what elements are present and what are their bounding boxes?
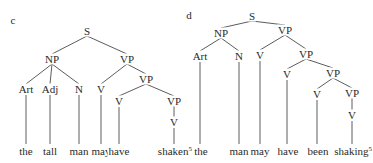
- node-v: V: [282, 69, 292, 80]
- node-v: V: [347, 110, 357, 121]
- word-been: been: [307, 146, 330, 157]
- node-vp: VP: [344, 88, 360, 99]
- node-vp: VP: [119, 54, 135, 65]
- node-v: V: [169, 117, 179, 128]
- footnote-marker: 5: [369, 145, 373, 153]
- node-v: V: [255, 50, 265, 61]
- word-shaking: shaking5: [333, 146, 373, 157]
- word-man: man: [229, 146, 250, 157]
- tree-edge: [87, 36, 127, 54]
- tree-edge: [52, 36, 87, 54]
- node-s: S: [83, 26, 91, 37]
- panel-label: d: [185, 10, 193, 21]
- word-have: have: [108, 146, 131, 157]
- node-n: N: [74, 84, 84, 95]
- node-s: S: [248, 11, 256, 22]
- node-v: V: [312, 89, 322, 100]
- word-the: the: [18, 146, 33, 157]
- node-np: NP: [213, 28, 229, 39]
- node-n: N: [234, 51, 244, 62]
- node-vp: VP: [298, 49, 314, 60]
- word-shaken: shaken5: [157, 146, 193, 157]
- word-the: the: [193, 146, 208, 157]
- node-v: V: [96, 84, 106, 95]
- tree-edge: [52, 64, 79, 84]
- node-adj: Adj: [41, 84, 60, 95]
- word-may: may: [250, 146, 271, 157]
- node-art: Art: [18, 84, 35, 95]
- node-vp: VP: [325, 68, 341, 79]
- tree-edge: [50, 64, 52, 84]
- tree-edge: [26, 64, 52, 84]
- node-vp: VP: [138, 74, 154, 85]
- node-vp: VP: [166, 96, 182, 107]
- node-art: Art: [192, 51, 209, 62]
- tree-edge: [119, 84, 146, 96]
- panel-label: c: [10, 15, 17, 26]
- node-np: NP: [44, 54, 60, 65]
- node-vp: VP: [277, 25, 293, 36]
- word-tall: tall: [42, 146, 58, 157]
- node-v: V: [114, 96, 124, 107]
- footnote-marker: 5: [188, 145, 192, 153]
- word-have: have: [277, 146, 300, 157]
- word-man: man: [69, 146, 90, 157]
- tree-edge: [101, 64, 127, 84]
